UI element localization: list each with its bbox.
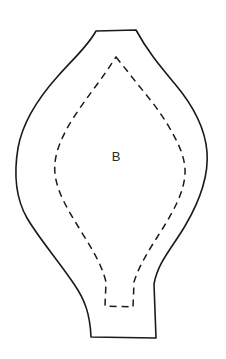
pattern-sheet: B <box>0 0 226 359</box>
piece-label: B <box>112 149 121 164</box>
pattern-drawing: B <box>0 0 226 359</box>
cutting-line-path <box>16 30 207 338</box>
